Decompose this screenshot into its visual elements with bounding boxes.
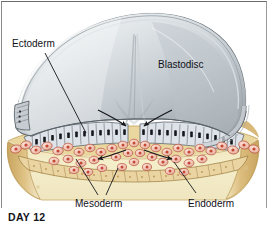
figure-root: Ectoderm Blastodisc Mesoderm Endoderm DA… <box>0 0 276 232</box>
label-blastodisc: Blastodisc <box>158 59 204 70</box>
label-ectoderm: Ectoderm <box>12 38 55 49</box>
label-endoderm: Endoderm <box>188 198 234 208</box>
illustration-panel: Ectoderm Blastodisc Mesoderm Endoderm <box>1 1 267 208</box>
dome-cut-edge <box>14 101 30 130</box>
embryo-cross-section-illustration <box>2 2 266 208</box>
label-mesoderm: Mesoderm <box>75 198 122 208</box>
figure-caption-day: DAY 12 <box>8 211 45 223</box>
